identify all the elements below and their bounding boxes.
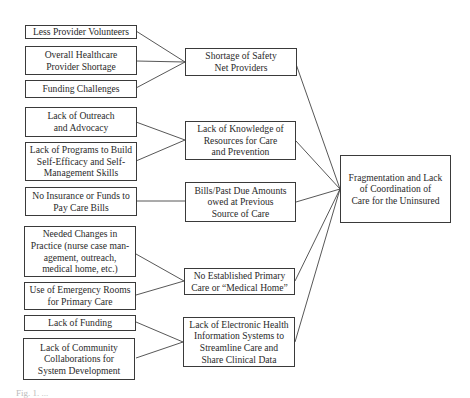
intermediate-label: Lack of Knowledge of Resources for Care … — [197, 123, 284, 158]
cause-label: Lack of Funding — [48, 317, 112, 329]
cause-box-funding-challenges: Funding Challenges — [25, 80, 137, 98]
cause-label: Needed Changes in Practice (nurse case m… — [31, 228, 129, 274]
connector-m3-o1 — [296, 189, 340, 202]
intermediate-box-lack-of-knowledge: Lack of Knowledge of Resources for Care … — [185, 121, 296, 160]
figure-caption: Fig. 1. ... — [16, 388, 48, 398]
cause-box-lack-of-programs: Lack of Programs to Build Self-Efficacy … — [25, 142, 137, 181]
outcome-box-fragmentation: Fragmentation and Lack of Coordination o… — [340, 155, 451, 223]
intermediate-label: Bills/Past Due Amounts owed at Previous … — [194, 185, 286, 220]
intermediate-label: Shortage of Safety Net Providers — [205, 50, 276, 73]
cause-label: Overall Healthcare Provider Shortage — [45, 49, 118, 72]
connector-m2-o1 — [296, 141, 340, 189]
cause-box-needed-changes-in-practice: Needed Changes in Practice (nurse case m… — [24, 226, 136, 277]
connector-c10-m5 — [136, 342, 183, 358]
cause-box-no-insurance: No Insurance or Funds to Pay Care Bills — [25, 187, 137, 216]
cause-label: Lack of Programs to Build Self-Efficacy … — [30, 144, 132, 179]
connector-c2-m1 — [136, 61, 185, 62]
connector-c7-m4 — [136, 254, 184, 281]
connector-c4-m2 — [136, 122, 185, 140]
cause-label: No Insurance or Funds to Pay Care Bills — [32, 190, 130, 213]
cause-box-use-of-emergency-rooms: Use of Emergency Rooms for Primary Care — [24, 282, 136, 310]
cause-box-lack-of-funding: Lack of Funding — [24, 315, 136, 331]
connector-m4-o1 — [295, 189, 340, 281]
outcome-label: Fragmentation and Lack of Coordination o… — [349, 172, 443, 207]
cause-label: Less Provider Volunteers — [33, 26, 129, 38]
cause-box-lack-of-outreach: Lack of Outreach and Advocacy — [25, 107, 137, 137]
cause-box-less-provider-volunteers: Less Provider Volunteers — [25, 25, 137, 39]
cause-label: Use of Emergency Rooms for Primary Care — [30, 284, 131, 307]
intermediate-box-bills-past-due: Bills/Past Due Amounts owed at Previous … — [185, 182, 296, 222]
connector-c1-m1 — [136, 31, 185, 62]
connector-c5-m2 — [136, 140, 185, 161]
connector-m5-o1 — [295, 189, 340, 342]
cause-box-overall-healthcare-provider-shortage: Overall Healthcare Provider Shortage — [25, 46, 137, 75]
cause-label: Lack of Community Collaborations for Sys… — [38, 342, 120, 377]
cause-label: Lack of Outreach and Advocacy — [47, 110, 114, 133]
intermediate-box-lack-of-electronic-health-info: Lack of Electronic Health Information Sy… — [183, 317, 295, 367]
connector-m1-o1 — [296, 64, 340, 189]
intermediate-box-shortage-of-safety-net-providers: Shortage of Safety Net Providers — [185, 48, 297, 76]
cause-label: Funding Challenges — [42, 83, 119, 95]
intermediate-label: Lack of Electronic Health Information Sy… — [189, 319, 288, 365]
connector-c9-m5 — [136, 322, 183, 342]
cause-box-lack-of-community-collaborations: Lack of Community Collaborations for Sys… — [23, 338, 135, 380]
intermediate-label: No Established Primary Care or “Medical … — [191, 270, 288, 293]
intermediate-box-no-established-primary-care: No Established Primary Care or “Medical … — [184, 268, 295, 295]
connector-c8-m4 — [136, 281, 184, 295]
connector-c3-m1 — [136, 62, 185, 88]
